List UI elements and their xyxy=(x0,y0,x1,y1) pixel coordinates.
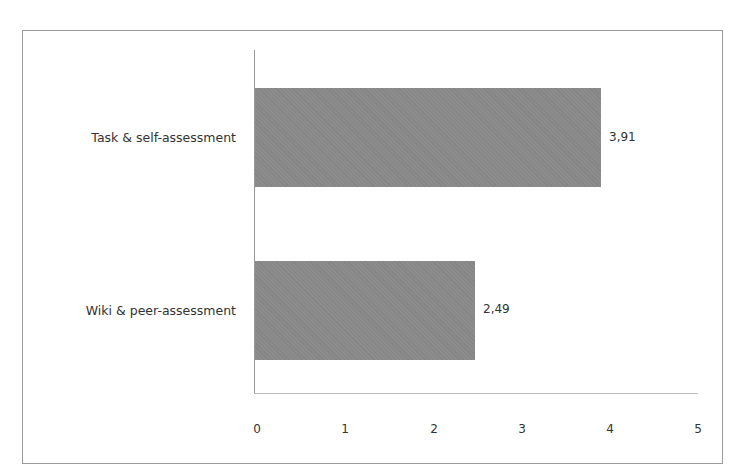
plot-area xyxy=(254,50,698,393)
x-tick-label: 3 xyxy=(518,422,526,436)
x-tick-label: 4 xyxy=(606,422,614,436)
category-label: Wiki & peer-assessment xyxy=(86,303,236,318)
x-axis-line xyxy=(254,393,698,394)
x-tick-label: 0 xyxy=(253,422,261,436)
value-label: 3,91 xyxy=(609,130,636,144)
bar-task-self-assessment xyxy=(255,88,601,187)
category-label: Task & self-assessment xyxy=(91,130,236,145)
x-tick-label: 2 xyxy=(430,422,438,436)
x-tick-label: 1 xyxy=(341,422,349,436)
bar-wiki-peer-assessment xyxy=(255,261,475,360)
x-tick-label: 5 xyxy=(694,422,702,436)
value-label: 2,49 xyxy=(483,302,510,316)
